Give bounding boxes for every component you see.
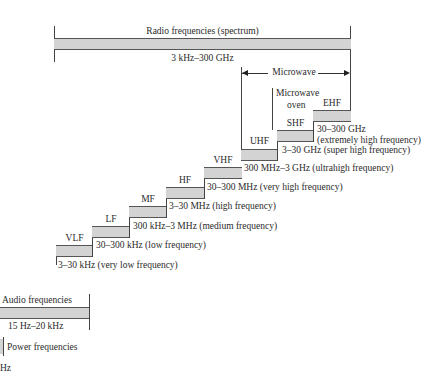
band-range-line2: (extremely high frequency) — [317, 136, 421, 146]
band-abbr: SHF — [277, 119, 314, 129]
audio-title: Audio frequencies — [2, 296, 72, 306]
band-range: 3–30 kHz (very low frequency) — [58, 261, 178, 271]
microwave-oven-label-2: oven — [287, 101, 305, 111]
band-bar — [92, 226, 130, 238]
band-bar — [56, 245, 93, 257]
microwave-arrow-right-line — [318, 73, 344, 74]
band-range: 300 kHz–3 MHz (medium frequency) — [133, 222, 277, 232]
band-bar — [313, 110, 351, 122]
radio-range: 3 kHz–300 GHz — [54, 54, 351, 64]
microwave-oven-label-1: Microwave — [276, 89, 319, 99]
band-bar — [277, 130, 314, 142]
audio-bar — [0, 307, 90, 319]
band-bar — [166, 187, 204, 199]
band-bar — [129, 206, 167, 218]
band-abbr: HF — [166, 176, 204, 186]
band-range: 3–30 MHz (high frequency) — [169, 202, 276, 212]
radio-bar — [54, 38, 351, 50]
band-bar — [204, 167, 242, 179]
band-range: 3–30 GHz (super high frequency) — [282, 146, 410, 156]
power-bar — [0, 339, 3, 354]
band-abbr: VLF — [56, 234, 93, 244]
power-range: Hz — [0, 364, 11, 374]
power-title: Power frequencies — [7, 343, 77, 353]
audio-right-tick — [89, 294, 90, 330]
band-abbr: MF — [129, 195, 167, 205]
band-abbr: LF — [92, 215, 130, 225]
band-tick — [204, 176, 205, 199]
band-bar — [241, 149, 278, 161]
band-abbr: VHF — [204, 156, 242, 166]
band-range: 300 MHz–3 GHz (ultrahigh frequency) — [244, 164, 393, 174]
microwave-oven-line — [272, 88, 273, 130]
radio-title: Radio frequencies (spectrum) — [54, 27, 351, 37]
arrow-right-icon — [344, 70, 350, 76]
band-range-line1: 30–300 GHz — [317, 125, 366, 135]
band-abbr: EHF — [313, 99, 351, 109]
band-range: 30–300 kHz (low frequency) — [96, 241, 206, 251]
arrow-left-icon — [242, 70, 248, 76]
audio-range: 15 Hz–20 kHz — [8, 322, 63, 332]
band-abbr: UHF — [241, 137, 278, 147]
power-tick — [3, 337, 4, 356]
band-range: 30–300 MHz (very high frequency) — [207, 183, 343, 193]
microwave-label: Microwave — [270, 68, 318, 78]
